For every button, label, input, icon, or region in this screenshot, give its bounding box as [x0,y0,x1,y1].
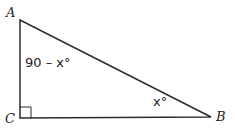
vertex-label-b: B [215,109,226,124]
vertex-label-a: A [5,5,15,20]
vertex-label-c: C [5,111,15,126]
triangle-diagram: A B C 90 – x° x° [0,0,235,129]
right-angle-marker [20,107,31,118]
angle-label-b: x° [153,94,167,109]
angle-label-a: 90 – x° [25,55,71,70]
